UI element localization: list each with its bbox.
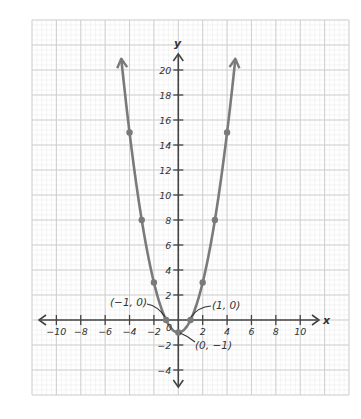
y-tick-label: 4: [165, 265, 171, 276]
x-tick-label: −2: [147, 326, 161, 337]
annotation-1-0: (1, 0): [212, 299, 240, 311]
x-tick-label: −6: [98, 326, 112, 337]
y-tick-label: −4: [157, 365, 171, 376]
origin-label: 0: [166, 322, 172, 333]
x-tick-label: 2: [200, 326, 206, 337]
data-point: [139, 217, 145, 223]
y-tick-label: 20: [159, 65, 171, 76]
data-point: [224, 129, 230, 135]
data-point: [187, 317, 193, 323]
data-point: [175, 329, 181, 335]
x-axis-label: x: [322, 314, 331, 327]
y-tick-label: 8: [165, 215, 171, 226]
x-tick-label: 6: [248, 326, 254, 337]
data-point: [199, 279, 205, 285]
data-point: [212, 217, 218, 223]
y-tick-label: 2: [165, 290, 171, 301]
y-tick-label: 12: [159, 165, 171, 176]
x-tick-label: −8: [74, 326, 88, 337]
x-tick-label: −10: [46, 326, 66, 337]
parabola-chart: −10−8−6−4−22468102018161412108642−2−4 x …: [0, 0, 361, 419]
annotation-0-neg1: (0, −1): [195, 339, 232, 351]
x-tick-label: 10: [294, 326, 306, 337]
x-tick-label: 8: [273, 326, 279, 337]
annotation-neg1-0: (−1, 0): [110, 296, 147, 308]
labels: x y 0 (−1, 0) (1, 0) (0, −1): [110, 37, 331, 351]
y-tick-label: −2: [157, 340, 171, 351]
y-axis-label: y: [174, 37, 182, 50]
x-tick-label: 4: [224, 326, 230, 337]
y-tick-label: 10: [159, 190, 171, 201]
data-point: [126, 129, 132, 135]
y-tick-label: 18: [159, 90, 171, 101]
y-tick-label: 16: [159, 115, 171, 126]
data-point: [151, 279, 157, 285]
y-tick-label: 6: [165, 240, 171, 251]
x-tick-label: −4: [123, 326, 137, 337]
y-tick-label: 14: [159, 140, 171, 151]
